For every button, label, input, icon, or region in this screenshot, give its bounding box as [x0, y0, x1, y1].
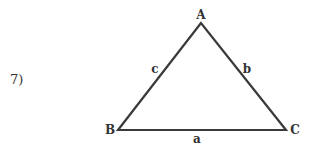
side-label-c: c — [151, 62, 158, 76]
side-label-a: a — [193, 132, 201, 146]
vertex-label-a: A — [195, 8, 206, 22]
triangle-abc — [118, 23, 286, 130]
vertex-label-b: B — [105, 123, 115, 137]
side-label-b: b — [243, 62, 251, 76]
triangle-diagram: A B C c b a — [0, 0, 310, 148]
vertex-label-c: C — [290, 123, 300, 137]
